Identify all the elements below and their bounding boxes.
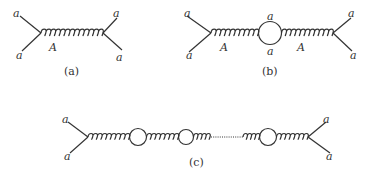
label-a: a (323, 113, 330, 126)
external-leg (68, 122, 88, 137)
loop-label: a (267, 10, 274, 23)
caption-c: (c) (189, 156, 204, 169)
external-leg (70, 137, 88, 153)
gluon-propagator (147, 133, 179, 139)
label-a: a (186, 49, 193, 62)
gluon-propagator (88, 133, 130, 139)
label-a: a (116, 51, 123, 64)
label-a: a (184, 7, 191, 20)
label-a: a (348, 7, 355, 20)
diagram-c (68, 122, 330, 153)
external-leg (103, 18, 117, 33)
label-a: a (326, 150, 333, 163)
gluon-propagator (243, 133, 260, 139)
external-leg (103, 33, 122, 50)
external-leg (333, 18, 351, 33)
label-a: a (62, 113, 69, 126)
label-a: a (13, 7, 20, 20)
loop-label: a (267, 45, 274, 58)
loop (260, 129, 277, 146)
loop (179, 130, 194, 145)
external-leg (22, 33, 41, 51)
label-a: a (16, 49, 23, 62)
feynman-diagrams: a a a a A (a) a a a a a a A A (b) a a a … (0, 0, 365, 173)
external-leg (187, 16, 211, 33)
label-a: a (64, 150, 71, 163)
propagator-label: A (48, 41, 57, 54)
propagator-label: A (219, 41, 228, 54)
external-leg (20, 16, 41, 33)
label-a: a (113, 7, 120, 20)
diagram-a (20, 16, 122, 51)
loop (130, 129, 147, 146)
gluon-propagator (194, 133, 211, 139)
gluon-propagator (277, 133, 309, 139)
gluon-propagator (211, 29, 259, 36)
caption-a: (a) (64, 65, 79, 78)
gluon-propagator (41, 29, 103, 36)
label-a: a (350, 49, 357, 62)
propagator-label: A (296, 41, 305, 54)
caption-b: (b) (262, 65, 278, 78)
loop (259, 22, 282, 45)
gluon-propagator (282, 29, 334, 36)
